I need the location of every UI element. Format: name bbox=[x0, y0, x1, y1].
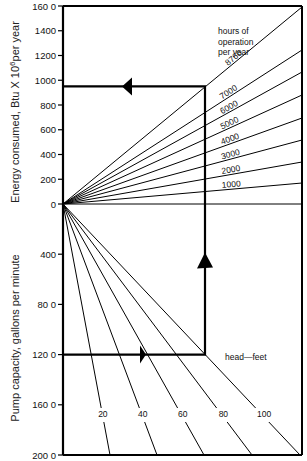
head-legend-title: head—feet bbox=[225, 352, 267, 362]
head-line-20-tail bbox=[104, 422, 110, 455]
y-tick-label: 160 0 bbox=[32, 399, 56, 410]
y-tick-label: 200 bbox=[40, 174, 56, 185]
head-line-80 bbox=[63, 204, 217, 408]
hours-label: 5000 bbox=[219, 114, 241, 131]
y-tick-label: 200 0 bbox=[32, 450, 56, 461]
example-solution-path bbox=[63, 77, 213, 363]
head-label: 100 bbox=[257, 409, 271, 419]
y-tick-label: 400 bbox=[40, 149, 56, 160]
arrow-right-icon bbox=[140, 346, 146, 364]
y-tick-label: 1200 bbox=[35, 50, 56, 61]
hours-label: 6000 bbox=[218, 98, 240, 116]
hours-label: 1000 bbox=[221, 178, 241, 190]
head-line-60-tail bbox=[185, 422, 204, 455]
head-line-100 bbox=[63, 204, 256, 408]
hours-line-4000 bbox=[63, 118, 302, 204]
hours-legend-title: per year bbox=[218, 47, 249, 57]
hours-line-8760 bbox=[63, 7, 302, 204]
y-tick-label: 80 0 bbox=[38, 299, 57, 310]
hours-line-6000 bbox=[63, 72, 302, 204]
hours-label: 2000 bbox=[221, 163, 242, 176]
arrow-left-icon bbox=[122, 77, 132, 95]
head-line-40 bbox=[63, 204, 139, 408]
hours-line-7000 bbox=[63, 50, 302, 204]
upper-fan-lines bbox=[63, 7, 302, 204]
y-tick-label: 1400 bbox=[35, 25, 56, 36]
hours-legend-title: operation bbox=[218, 37, 254, 47]
hours-legend-title: hours of bbox=[218, 26, 249, 36]
hours-line-2000 bbox=[63, 162, 302, 204]
head-line-100-tail bbox=[269, 422, 300, 455]
y-tick-label: 120 0 bbox=[32, 349, 56, 360]
head-label: 60 bbox=[178, 409, 188, 419]
head-line-20 bbox=[63, 204, 101, 408]
head-label: 80 bbox=[219, 409, 229, 419]
y-tick-label: 0 bbox=[51, 199, 56, 210]
head-label: 20 bbox=[98, 409, 108, 419]
hours-label: 3000 bbox=[220, 147, 241, 162]
y-tick-label: 400 bbox=[40, 249, 56, 260]
arrow-up-icon bbox=[197, 252, 213, 268]
lower-y-axis-title: Pump capacity, gallons per minute bbox=[9, 254, 21, 421]
head-label: 40 bbox=[138, 409, 148, 419]
chart-labels: 0200400600800100012001400160 040080 0120… bbox=[8, 1, 271, 461]
nomograph-chart: 0200400600800100012001400160 040080 0120… bbox=[0, 0, 307, 461]
y-tick-label: 600 bbox=[40, 124, 56, 135]
head-line-60 bbox=[63, 204, 178, 408]
y-tick-label: 1000 bbox=[35, 75, 56, 86]
head-line-40-tail bbox=[145, 422, 157, 455]
head-line-80-tail bbox=[227, 422, 252, 455]
y-tick-label: 160 0 bbox=[32, 1, 56, 12]
hours-line-1000 bbox=[63, 183, 302, 204]
hours-label: 7000 bbox=[218, 82, 240, 101]
upper-y-axis-title: Energy consumed, Btu X 106per year bbox=[8, 21, 21, 203]
y-tick-label: 800 bbox=[40, 100, 56, 111]
